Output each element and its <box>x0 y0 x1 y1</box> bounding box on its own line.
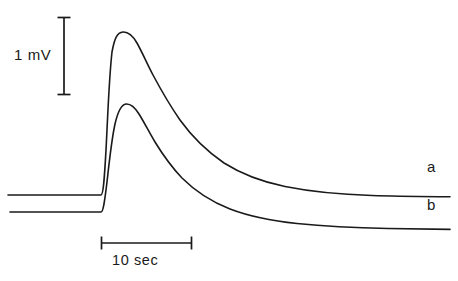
trace-a-path <box>8 32 450 197</box>
vertical-scale-label: 1 mV <box>14 47 51 62</box>
vertical-calibration-bar <box>58 18 71 95</box>
time-calibration-bar <box>101 237 192 250</box>
figure-root: 1 mV 10 sec a b <box>0 0 458 281</box>
time-scale-label: 10 sec <box>112 253 158 268</box>
trace-plot-canvas <box>0 0 458 281</box>
trace-b-label: b <box>427 197 435 212</box>
trace-a-label: a <box>427 159 435 174</box>
